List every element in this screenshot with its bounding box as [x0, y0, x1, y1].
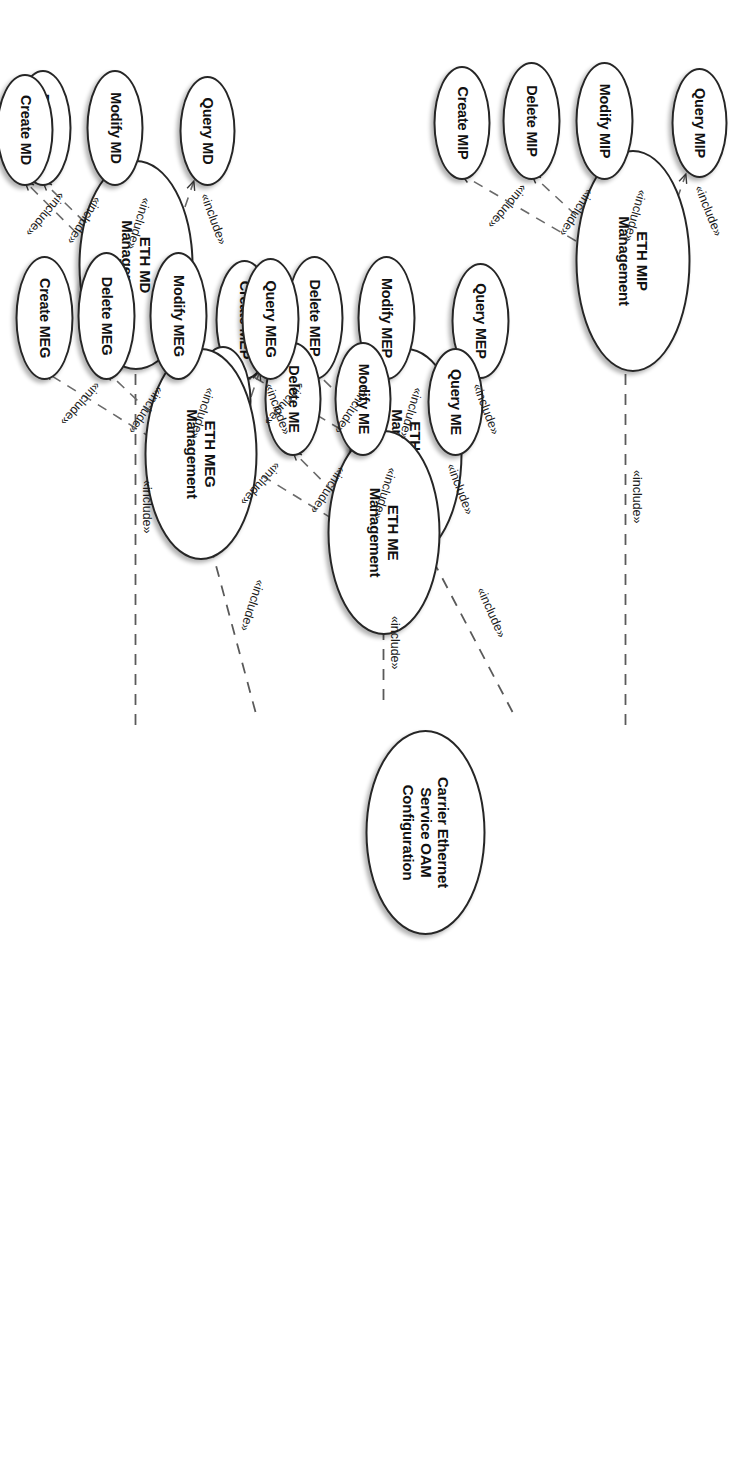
use-case-diagram: Carrier Ethernet Service OAM Configurati…: [0, 0, 745, 1468]
usecase-delete-meg[interactable]: Delete MEG: [77, 252, 135, 380]
usecase-root[interactable]: Carrier Ethernet Service OAM Configurati…: [365, 730, 485, 935]
usecase-eth-me-management-line2: Management: [367, 488, 384, 578]
usecase-eth-mip-management[interactable]: ETH MIP Management: [575, 150, 690, 372]
usecase-query-mip-label: Query MIP: [691, 82, 708, 164]
usecase-create-meg-label: Create MEG: [36, 272, 53, 364]
usecase-delete-mip[interactable]: Delete MIP: [502, 62, 560, 180]
usecase-eth-mip-management-label: ETH MIP Management: [615, 210, 650, 312]
usecase-create-mip[interactable]: Create MIP: [433, 66, 490, 180]
usecase-query-meg-label: Query MEG: [262, 274, 279, 363]
usecase-root-line3: Configuration: [399, 785, 416, 881]
usecase-query-mep-label: Query MEP: [472, 277, 489, 365]
usecase-eth-me-management-label: ETH ME Management: [366, 482, 401, 584]
usecase-eth-meg-management-label: ETH MEG Management: [183, 403, 218, 505]
usecase-delete-meg-label: Delete MEG: [98, 271, 115, 362]
usecase-query-md[interactable]: Query MD: [179, 76, 235, 186]
usecase-modify-meg-label: Modify MEG: [170, 269, 187, 363]
usecase-root-label: Carrier Ethernet Service OAM Configurati…: [399, 771, 451, 894]
usecase-modify-me[interactable]: Modify ME: [334, 342, 391, 456]
usecase-eth-mip-management-line1: ETH MIP: [633, 231, 650, 290]
usecase-modify-md[interactable]: Modify MD: [86, 70, 143, 186]
usecase-modify-md-label: Modify MD: [106, 86, 123, 170]
usecase-root-line1: Carrier Ethernet: [434, 777, 451, 888]
usecase-eth-md-management-line1: ETH MD: [136, 237, 153, 293]
usecase-modify-mip[interactable]: Modify MIP: [575, 62, 633, 180]
usecase-delete-me-label: Delete ME: [284, 359, 301, 439]
usecase-query-me[interactable]: Query ME: [427, 348, 483, 456]
usecase-query-mip[interactable]: Query MIP: [671, 68, 727, 178]
usecase-delete-mep-label: Delete MEP: [306, 274, 323, 363]
usecase-delete-mip-label: Delete MIP: [523, 79, 540, 162]
usecase-eth-me-management[interactable]: ETH ME Management: [327, 430, 440, 635]
usecase-create-mip-label: Create MIP: [453, 81, 470, 166]
usecase-eth-meg-management[interactable]: ETH MEG Management: [144, 348, 257, 560]
usecase-modify-me-label: Modify ME: [354, 358, 371, 441]
usecase-query-meg[interactable]: Query MEG: [241, 258, 299, 380]
usecase-eth-mip-management-line2: Management: [616, 216, 633, 306]
usecase-create-md[interactable]: Create MD: [0, 74, 53, 186]
usecase-modify-meg[interactable]: Modify MEG: [149, 252, 207, 380]
usecase-query-me-label: Query ME: [447, 363, 464, 441]
usecase-root-line2: Service OAM: [417, 787, 434, 877]
usecase-eth-me-management-line1: ETH ME: [384, 505, 401, 560]
usecase-query-md-label: Query MD: [199, 92, 216, 171]
usecase-eth-meg-management-line1: ETH MEG: [201, 421, 218, 488]
usecase-modify-mip-label: Modify MIP: [596, 78, 613, 165]
edge-eth-mip-management-to-create-mip: [462, 175, 591, 250]
usecase-modify-mep-label: Modify MEP: [378, 272, 395, 364]
usecase-eth-meg-management-line2: Management: [184, 409, 201, 499]
usecase-create-md-label: Create MD: [16, 89, 33, 171]
usecase-create-meg[interactable]: Create MEG: [15, 256, 73, 380]
diagram-canvas: Carrier Ethernet Service OAM Configurati…: [0, 0, 745, 1468]
